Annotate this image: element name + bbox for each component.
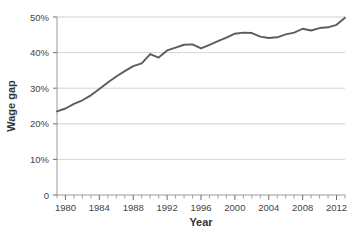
y-tick-label: 10% (30, 154, 50, 165)
x-tick-label: 1988 (123, 202, 144, 213)
wage-gap-line-chart: 50% 40% 30% 20% 10% 0 198019841988199219… (0, 0, 359, 244)
x-tick-label: 2004 (258, 202, 279, 213)
x-axis-ticks (57, 195, 345, 200)
y-axis-tick-labels: 50% 40% 30% 20% 10% 0 (30, 12, 50, 201)
y-axis-ticks (53, 17, 57, 195)
x-tick-label: 2000 (224, 202, 245, 213)
y-axis-title: Wage gap (5, 80, 17, 132)
x-tick-label: 1992 (157, 202, 178, 213)
x-tick-label: 1980 (55, 202, 76, 213)
x-axis-tick-labels: 198019841988199219962000200420082012 (55, 202, 347, 213)
y-tick-label: 40% (30, 47, 50, 58)
x-tick-label: 2008 (292, 202, 313, 213)
x-axis-title: Year (189, 216, 213, 228)
plot-area-background (57, 17, 345, 195)
chart-canvas: 50% 40% 30% 20% 10% 0 198019841988199219… (0, 0, 359, 244)
y-tick-label: 50% (30, 12, 50, 23)
y-tick-label: 0 (44, 190, 49, 201)
y-tick-label: 30% (30, 83, 50, 94)
x-tick-label: 1996 (190, 202, 211, 213)
x-tick-label: 1984 (89, 202, 110, 213)
y-tick-label: 20% (30, 118, 50, 129)
x-tick-label: 2012 (326, 202, 347, 213)
